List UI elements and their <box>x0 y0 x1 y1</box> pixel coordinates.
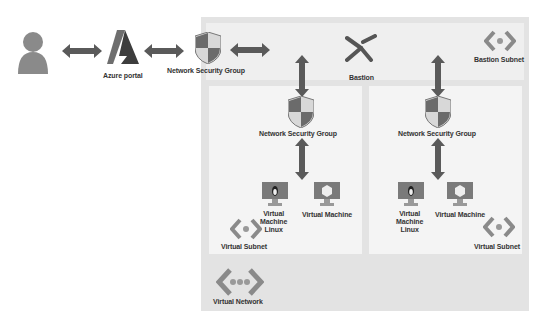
virtual-subnet-right-icon <box>483 216 515 238</box>
virtual-machine-linux-left-label: Virtual Machine Linux <box>260 210 287 234</box>
arrow-bastion-nsg-left <box>295 55 309 97</box>
network-security-group-left-shield-icon <box>288 96 314 128</box>
azure-portal-icon <box>107 30 139 64</box>
network-security-group-label: Network Security Group <box>167 67 245 74</box>
virtual-subnet-left-label: Virtual Subnet <box>221 243 267 250</box>
user-icon <box>16 30 50 74</box>
bastion-label: Bastion <box>349 74 374 81</box>
virtual-network-label: Virtual Network <box>213 298 263 305</box>
azure-portal-label: Azure portal <box>103 72 143 79</box>
arrow-nsg-bastion <box>230 43 270 57</box>
virtual-machine-right-label: Virtual Machine <box>435 211 485 218</box>
virtual-machine-left-icon <box>314 182 340 206</box>
bastion-subnet-icon <box>484 30 516 52</box>
network-security-group-right-shield-icon <box>425 96 451 128</box>
bastion-icon <box>345 34 377 62</box>
virtual-machine-left-label: Virtual Machine <box>302 211 352 218</box>
arrow-user-portal <box>62 44 102 58</box>
virtual-machine-linux-right-label: Virtual Machine Linux <box>396 210 423 234</box>
bastion-subnet-label: Bastion Subnet <box>474 56 524 63</box>
network-security-group-left-label: Network Security Group <box>259 130 337 137</box>
virtual-machine-linux-left-icon <box>262 182 288 206</box>
arrow-bastion-nsg-right <box>431 55 445 97</box>
arrow-portal-nsg <box>144 44 184 58</box>
virtual-machine-right-icon <box>447 182 473 206</box>
virtual-subnet-left-icon <box>230 218 262 240</box>
virtual-network-icon <box>216 268 264 296</box>
arrow-nsg-vm-right <box>431 138 445 180</box>
network-security-group-shield-icon <box>195 32 221 64</box>
network-security-group-right-label: Network Security Group <box>398 130 476 137</box>
virtual-machine-linux-right-icon <box>398 182 424 206</box>
arrow-nsg-vm-left <box>295 138 309 180</box>
virtual-subnet-right-label: Virtual Subnet <box>474 243 520 250</box>
